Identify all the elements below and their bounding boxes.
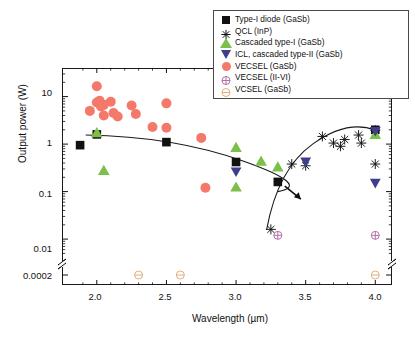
y-axis-title: Output power (W)	[17, 64, 28, 184]
x-axis-title: Wavelength (µm)	[120, 313, 340, 324]
legend-label: VECSEL (II-VI)	[235, 72, 290, 83]
x-tick-label-2.0: 2.0	[78, 291, 112, 302]
x-tick-label-2.5: 2.5	[148, 291, 182, 302]
filled-square-icon	[217, 14, 235, 25]
legend-item-vecsel-ii-vi: VECSEL (II-VI)	[217, 72, 404, 84]
x-tick-label-3.5: 3.5	[288, 291, 322, 302]
legend-label: ICL, cascaded type-II (GaSb)	[235, 49, 342, 60]
legend-label: VECSEL (GaSb)	[235, 61, 296, 72]
legend-label: QCL (InP)	[235, 26, 272, 37]
legend-item-type-i-diode: Type-I diode (GaSb)	[217, 14, 404, 26]
legend-item-vcsel-gasb: VCSEL (GaSb)	[217, 84, 404, 96]
y-tick-label-10: 10	[8, 87, 52, 98]
y-tick-label-1: 1	[8, 137, 52, 148]
chart-figure: Output power (W) Wavelength (µm) 10 1 0.…	[0, 0, 415, 338]
legend-label: Type-I diode (GaSb)	[235, 14, 310, 25]
y-tick-label-0.0002: 0.0002	[2, 270, 52, 281]
triangle-up-icon	[217, 37, 235, 48]
circle-plus-icon	[217, 72, 235, 83]
legend-label: VCSEL (GaSb)	[235, 84, 291, 95]
plot-area	[62, 68, 392, 285]
triangle-down-icon	[217, 49, 235, 60]
legend-label: Cascaded type-I (GaSb)	[235, 37, 324, 48]
x-tick-label-4.0: 4.0	[358, 291, 392, 302]
circle-minus-icon	[217, 84, 235, 95]
legend-item-vecsel-gasb: VECSEL (GaSb)	[217, 60, 404, 72]
x-tick-label-3.0: 3.0	[218, 291, 252, 302]
legend: Type-I diode (GaSb) QCL (InP) Cascaded t…	[213, 10, 409, 99]
legend-item-qcl: QCL (InP)	[217, 26, 404, 38]
asterisk-icon	[217, 26, 235, 37]
legend-item-icl: ICL, cascaded type-II (GaSb)	[217, 49, 404, 61]
y-tick-label-0.1: 0.1	[8, 188, 52, 199]
y-tick-label-0.01: 0.01	[8, 243, 52, 254]
filled-circle-icon	[217, 61, 235, 72]
legend-item-cascaded-type-i: Cascaded type-I (GaSb)	[217, 37, 404, 49]
